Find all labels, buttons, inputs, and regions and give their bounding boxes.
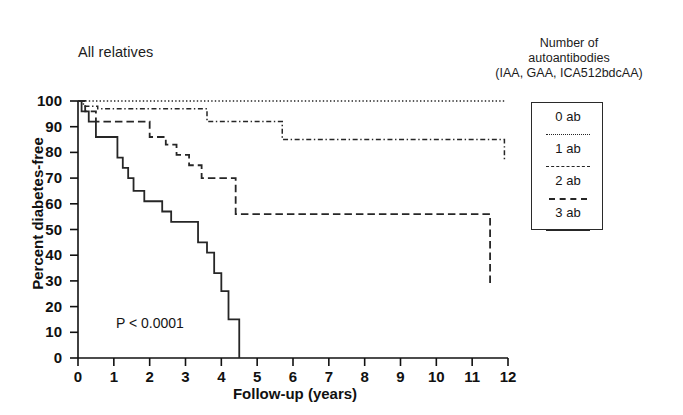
x-tick-label: 6 (280, 368, 306, 385)
plot-area (0, 0, 683, 415)
x-tick-label: 8 (352, 368, 378, 385)
x-tick-label: 10 (423, 368, 449, 385)
x-tick-label: 12 (495, 368, 521, 385)
y-axis-ticks (70, 101, 78, 358)
x-tick-label: 9 (388, 368, 414, 385)
y-tick-label: 0 (28, 349, 62, 366)
y-tick-label: 10 (28, 323, 62, 340)
x-tick-label: 0 (65, 368, 91, 385)
y-axis-title: Percent diabetes-free (29, 114, 46, 314)
x-tick-label: 7 (316, 368, 342, 385)
x-tick-label: 1 (101, 368, 127, 385)
kaplan-meier-figure: All relatives Number of autoantibodies (… (0, 0, 683, 415)
survival-curve-2-ab (78, 101, 490, 286)
y-tick-label: 100 (28, 92, 62, 109)
x-tick-label: 5 (244, 368, 270, 385)
x-tick-label: 3 (173, 368, 199, 385)
x-tick-label: 2 (137, 368, 163, 385)
x-axis-title: Follow-up (years) (150, 385, 440, 402)
x-tick-label: 11 (459, 368, 485, 385)
x-tick-label: 4 (208, 368, 234, 385)
p-value-annotation: P < 0.0001 (116, 315, 184, 331)
survival-curve-1-ab (78, 101, 504, 160)
x-axis-ticks (78, 358, 508, 366)
